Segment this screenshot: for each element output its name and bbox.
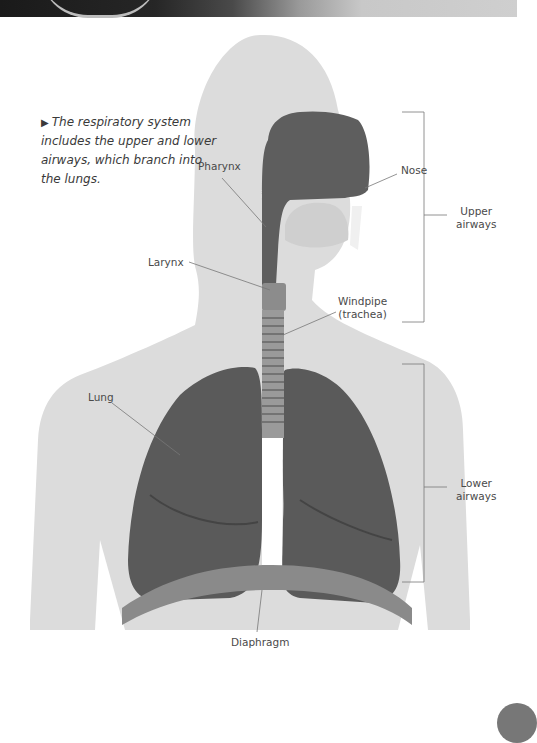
larynx-shape	[262, 283, 286, 311]
label-larynx: Larynx	[148, 256, 184, 269]
teeth	[350, 206, 362, 250]
figure-caption: ▶The respiratory system includes the upp…	[41, 113, 221, 189]
caption-text: The respiratory system includes the uppe…	[41, 115, 216, 186]
label-lung: Lung	[88, 391, 114, 404]
label-diaphragm: Diaphragm	[231, 636, 289, 649]
label-upper-airways: Upperairways	[456, 205, 496, 231]
label-nose: Nose	[401, 164, 427, 177]
page-corner-tab	[497, 703, 537, 743]
label-pharynx: Pharynx	[198, 160, 241, 173]
caption-marker-icon: ▶	[41, 117, 49, 128]
label-windpipe: Windpipe(trachea)	[338, 295, 387, 321]
label-lower-airways: Lowerairways	[456, 477, 496, 503]
